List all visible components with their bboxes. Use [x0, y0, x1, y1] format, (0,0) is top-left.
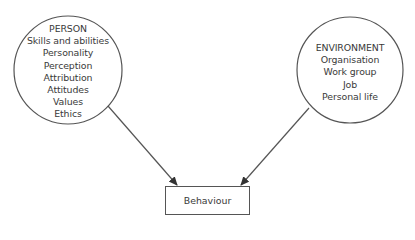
environment-item: Job [300, 79, 400, 91]
behaviour-label: Behaviour [184, 195, 232, 206]
person-item: Personality [18, 47, 118, 59]
environment-to-behaviour-arrow [241, 108, 309, 185]
behaviour-node: Behaviour [165, 186, 250, 215]
environment-node: ENVIRONMENT Organisation Work group Job … [300, 42, 400, 103]
person-item: Skills and abilities [18, 35, 118, 47]
person-item: Perception [18, 60, 118, 72]
environment-title: ENVIRONMENT [300, 42, 400, 54]
person-item: Attitudes [18, 84, 118, 96]
environment-item: Work group [300, 66, 400, 78]
environment-item: Organisation [300, 54, 400, 66]
person-node: PERSON Skills and abilities Personality … [18, 23, 118, 121]
person-title: PERSON [18, 23, 118, 35]
environment-item: Personal life [300, 91, 400, 103]
person-item: Ethics [18, 108, 118, 120]
person-item: Attribution [18, 72, 118, 84]
person-item: Values [18, 96, 118, 108]
person-to-behaviour-arrow [108, 106, 177, 185]
